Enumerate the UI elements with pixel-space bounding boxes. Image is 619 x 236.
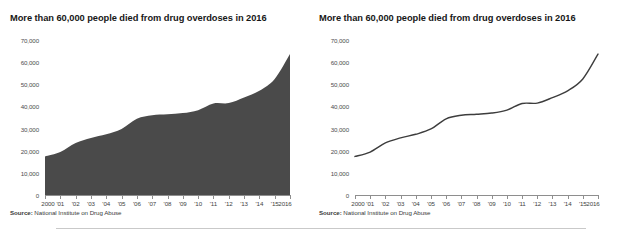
x-axis-tick	[152, 195, 153, 199]
y-tick-label: 70,000	[21, 37, 39, 44]
y-tick-label: 20,000	[331, 147, 349, 154]
x-axis-tick	[370, 195, 371, 199]
x-axis-tick	[259, 195, 260, 199]
x-axis-tick	[598, 195, 599, 199]
x-axis-tick	[477, 195, 478, 199]
x-axis-tick	[385, 195, 386, 199]
x-tick-label: '02	[381, 200, 389, 207]
infographic-page: More than 60,000 people died from drug o…	[0, 0, 619, 236]
y-tick-label: 40,000	[21, 103, 39, 110]
x-tick-label: '03	[397, 200, 405, 207]
source-note-area: Source: National Institute on Drug Abuse	[10, 209, 122, 216]
x-tick-label: '13	[549, 200, 557, 207]
y-tick-label: 30,000	[21, 125, 39, 132]
y-axis-labels-area: 010,00020,00030,00040,00050,00060,00070,…	[0, 40, 42, 195]
y-tick-label: 0	[36, 192, 39, 199]
x-axis-tick	[45, 195, 46, 199]
x-tick-label: '10	[194, 200, 202, 207]
x-tick-label: '09	[488, 200, 496, 207]
x-tick-label: '04	[412, 200, 420, 207]
x-tick-label: '10	[503, 200, 511, 207]
x-axis-tick	[76, 195, 77, 199]
x-axis-tick	[137, 195, 138, 199]
x-axis-tick	[244, 195, 245, 199]
source-label-secondary: Source:	[319, 209, 342, 216]
x-axis-tick	[522, 195, 523, 199]
y-tick-label: 50,000	[331, 81, 349, 88]
x-tick-label: '02	[72, 200, 80, 207]
x-axis-ticks-line	[355, 195, 598, 199]
x-tick-label: 2016	[586, 200, 599, 207]
x-axis-ticks-area	[45, 195, 290, 199]
source-text-secondary: National Institute on Drug Abuse	[342, 209, 431, 216]
x-tick-label: '08	[473, 200, 481, 207]
x-tick-label: '07	[457, 200, 465, 207]
x-axis-tick	[168, 195, 169, 199]
x-axis-tick	[537, 195, 538, 199]
x-tick-label: '05	[118, 200, 126, 207]
x-axis-tick	[183, 195, 184, 199]
overdose-deaths-area	[45, 54, 290, 195]
x-axis-tick	[290, 195, 291, 199]
x-tick-label: '01	[366, 200, 374, 207]
x-tick-label: '08	[164, 200, 172, 207]
x-tick-label: '11	[210, 200, 217, 207]
x-axis-tick	[446, 195, 447, 199]
x-axis-tick	[568, 195, 569, 199]
bottom-divider	[56, 228, 586, 229]
area-chart-svg	[45, 40, 290, 195]
x-tick-label: '04	[102, 200, 110, 207]
x-axis-tick	[198, 195, 199, 199]
plot-area-area-chart	[45, 40, 290, 195]
x-tick-label: '14	[564, 200, 572, 207]
x-axis-tick	[552, 195, 553, 199]
y-axis-labels-line: 010,00020,00030,00040,00050,00060,00070,…	[310, 40, 352, 195]
y-tick-label: 40,000	[331, 103, 349, 110]
x-axis-tick	[213, 195, 214, 199]
x-axis-tick	[229, 195, 230, 199]
source-note-line: Source: National Institute on Drug Abuse	[319, 209, 431, 216]
x-axis-tick	[401, 195, 402, 199]
chart-panel-area: More than 60,000 people died from drug o…	[0, 0, 309, 236]
x-tick-label: '01	[56, 200, 64, 207]
x-tick-label: 2000	[41, 200, 54, 207]
x-tick-label: '07	[148, 200, 156, 207]
plot-area-line-chart	[355, 40, 598, 195]
x-tick-label: '09	[179, 200, 187, 207]
y-tick-label: 20,000	[21, 147, 39, 154]
x-tick-label: '13	[240, 200, 248, 207]
x-axis-tick	[91, 195, 92, 199]
source-label: Source:	[10, 209, 33, 216]
page-title-secondary: More than 60,000 people died from drug o…	[319, 13, 576, 23]
y-tick-label: 60,000	[21, 59, 39, 66]
x-axis-tick	[492, 195, 493, 199]
x-tick-label: 2016	[278, 200, 291, 207]
x-axis-tick	[122, 195, 123, 199]
x-axis-tick	[106, 195, 107, 199]
source-text: National Institute on Drug Abuse	[33, 209, 122, 216]
x-tick-label: 2000	[351, 200, 364, 207]
x-tick-label: '06	[442, 200, 450, 207]
x-tick-label: '14	[255, 200, 263, 207]
x-axis-tick	[60, 195, 61, 199]
x-tick-label: '03	[87, 200, 95, 207]
x-tick-label: '12	[225, 200, 233, 207]
page-title: More than 60,000 people died from drug o…	[10, 13, 267, 23]
x-tick-label: '06	[133, 200, 141, 207]
x-axis-tick	[461, 195, 462, 199]
y-tick-label: 30,000	[331, 125, 349, 132]
x-axis-tick	[583, 195, 584, 199]
overdose-deaths-line	[355, 54, 598, 156]
y-tick-label: 10,000	[331, 169, 349, 176]
y-tick-label: 70,000	[331, 37, 349, 44]
y-tick-label: 50,000	[21, 81, 39, 88]
x-tick-label: '11	[518, 200, 525, 207]
x-axis-tick	[416, 195, 417, 199]
x-axis-tick	[507, 195, 508, 199]
x-axis-tick	[355, 195, 356, 199]
chart-panel-line: More than 60,000 people died from drug o…	[310, 0, 619, 236]
y-tick-label: 60,000	[331, 59, 349, 66]
x-tick-label: '12	[533, 200, 541, 207]
y-tick-label: 10,000	[21, 169, 39, 176]
x-axis-tick	[275, 195, 276, 199]
